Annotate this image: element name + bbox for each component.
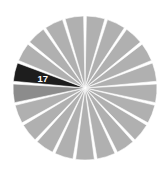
pie-chart-container: 17: [0, 0, 168, 172]
pie-slice-label: 17: [38, 73, 49, 84]
pie-labels-group: 17: [38, 73, 49, 84]
pie-chart-svg: 17: [0, 0, 168, 172]
